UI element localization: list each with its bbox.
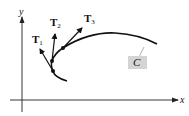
curve-label: C <box>133 56 141 68</box>
t3-label: T3 <box>84 12 95 26</box>
diagram: x y T1 T2 T3 C <box>0 0 189 116</box>
y-axis-label: y <box>18 6 24 17</box>
x-axis-label: x <box>179 94 185 105</box>
t1-label: T1 <box>32 33 43 47</box>
point-3 <box>61 46 65 50</box>
point-1 <box>51 69 55 73</box>
tangent-vector-t3 <box>63 28 82 48</box>
t2-label: T2 <box>50 16 61 30</box>
point-2 <box>50 59 54 63</box>
